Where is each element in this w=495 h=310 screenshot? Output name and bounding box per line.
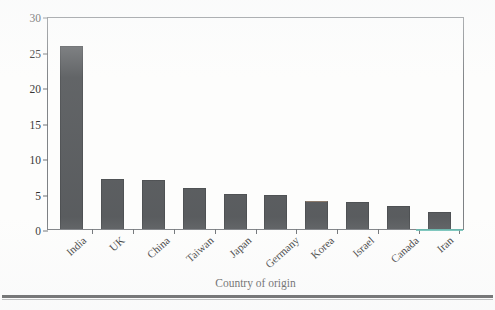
x-axis-tick-label: India: [63, 234, 88, 258]
x-axis-tick-label: Iran: [435, 234, 456, 255]
bar-uk[interactable]: [101, 179, 124, 229]
x-label-slot: China: [132, 232, 173, 278]
bar-india[interactable]: [60, 46, 83, 229]
plot-area: 051015202530: [47, 17, 464, 230]
bar-slot: [51, 18, 92, 229]
bar-slot: [133, 18, 174, 229]
x-label-slot: Iran: [420, 232, 461, 278]
x-axis-tick-label: UK: [107, 234, 127, 254]
bar-china[interactable]: [142, 180, 165, 229]
x-axis-tick-labels: IndiaUKChinaTaiwanJapanGermanyKoreaIsrae…: [47, 232, 464, 278]
scan-artifact-line: [416, 229, 463, 231]
x-axis-tick-label: Korea: [308, 234, 336, 261]
bar-slot: [256, 18, 297, 229]
bar-slot: [419, 18, 460, 229]
x-axis-title: Country of origin: [47, 277, 464, 289]
x-label-slot: Korea: [297, 232, 338, 278]
x-axis-tick-label: Germany: [263, 234, 301, 270]
bar-japan[interactable]: [224, 194, 247, 230]
bar-slot: [378, 18, 419, 229]
figure: Percentage of founders 051015202530 Indi…: [0, 0, 495, 310]
bar-korea[interactable]: [305, 201, 328, 229]
x-axis-tick-label: China: [144, 234, 172, 261]
x-label-slot: Israel: [338, 232, 379, 278]
bar-germany[interactable]: [264, 195, 287, 229]
bar-canada[interactable]: [387, 206, 410, 229]
bar-slot: [296, 18, 337, 229]
page-divider-rule-shadow: [2, 299, 493, 300]
x-label-slot: India: [50, 232, 91, 278]
bar-iran[interactable]: [428, 212, 451, 229]
bar-slot: [337, 18, 378, 229]
x-axis-tick-label: Israel: [350, 234, 376, 259]
x-label-slot: Canada: [379, 232, 420, 278]
x-label-slot: Taiwan: [173, 232, 214, 278]
page-divider-rule: [2, 295, 493, 298]
bar-series: [48, 18, 463, 229]
x-label-slot: Japan: [214, 232, 255, 278]
x-axis-tick-label: Taiwan: [183, 234, 215, 264]
bar-slot: [174, 18, 215, 229]
x-label-slot: Germany: [255, 232, 296, 278]
bar-slot: [215, 18, 256, 229]
bar-israel[interactable]: [346, 202, 369, 229]
bar-slot: [92, 18, 133, 229]
x-label-slot: UK: [91, 232, 132, 278]
x-axis-tick-label: Japan: [227, 234, 254, 260]
x-axis-tick-label: Canada: [389, 234, 422, 265]
bar-taiwan[interactable]: [183, 188, 206, 229]
